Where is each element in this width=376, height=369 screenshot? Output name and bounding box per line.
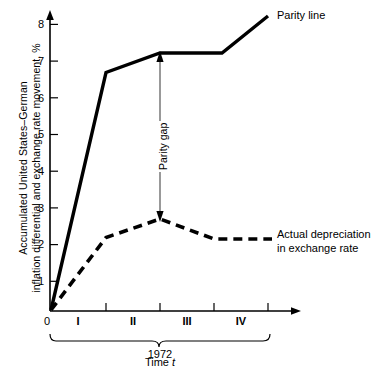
x-axis-ticks (106, 303, 268, 311)
y-tick-label-7: 7 (28, 56, 44, 67)
y-tick-label-1: 1 (28, 276, 44, 287)
y-axis-ticks (50, 24, 58, 281)
y-tick-label-5: 5 (28, 129, 44, 140)
origin-label: 0 (44, 316, 50, 327)
annotation-parity-gap-label: Parity gap (157, 121, 170, 172)
year-brace (50, 334, 270, 347)
y-tick-label-3: 3 (28, 203, 44, 214)
y-tick-label-4: 4 (28, 166, 44, 177)
series-label-actual-depreciation: Actual depreciation in exchange rate (277, 228, 371, 255)
x-tick-label-q4: IV (231, 316, 251, 327)
x-tick-label-q1: I (68, 316, 88, 327)
series-actual-depreciation (51, 219, 272, 310)
x-axis-title-text: Time (145, 356, 172, 368)
series-label-parity-line: Parity line (277, 9, 325, 23)
x-axis (50, 307, 301, 315)
y-tick-label-6: 6 (28, 93, 44, 104)
y-tick-label-2: 2 (28, 239, 44, 250)
y-tick-label-8: 8 (28, 19, 44, 30)
x-axis-title-variable: t (172, 356, 175, 368)
series-label-actual-depreciation-line-2: in exchange rate (277, 242, 371, 256)
chart-plot-area (0, 0, 376, 369)
chart-figure: Accumulated United States–German inflati… (0, 0, 376, 369)
x-axis-title: Time t (135, 357, 185, 368)
y-axis (46, 10, 54, 311)
series-label-actual-depreciation-line-1: Actual depreciation (277, 228, 371, 242)
x-tick-label-q2: II (123, 316, 143, 327)
x-tick-label-q3: III (177, 316, 197, 327)
